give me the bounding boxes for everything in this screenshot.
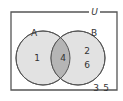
set-b-label: B [91, 28, 97, 38]
set-a-label: A [31, 28, 38, 38]
outside-element-3: 3 [93, 83, 99, 93]
venn-diagram: U A B 1 4 2 6 3 5 [0, 0, 123, 101]
a-only-element-1: 1 [34, 53, 40, 63]
outside-element-5: 5 [103, 83, 109, 93]
b-only-element-6: 6 [84, 60, 90, 70]
b-only-element-2: 2 [84, 46, 90, 56]
universal-set-label: U [91, 7, 98, 17]
intersection-element-4: 4 [60, 53, 66, 63]
